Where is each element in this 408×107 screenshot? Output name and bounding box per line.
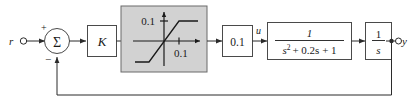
plant-denominator-rest: + 0.2s + 1 bbox=[292, 44, 336, 56]
sum-input-plus-sign: + bbox=[41, 22, 47, 33]
plant-numerator: 1 bbox=[307, 27, 313, 39]
gain-small-label: 0.1 bbox=[230, 36, 245, 48]
sum-input-minus-sign: − bbox=[45, 53, 51, 65]
summing-junction-symbol: Σ bbox=[53, 35, 61, 50]
signal-u-label: u bbox=[256, 25, 261, 36]
output-terminal-circle bbox=[396, 38, 402, 44]
output-label-y: y bbox=[401, 35, 407, 47]
plant-denominator-exponent: 2 bbox=[287, 43, 291, 52]
input-label-r: r bbox=[9, 35, 14, 47]
integrator-numerator: 1 bbox=[376, 28, 382, 40]
input-terminal-circle bbox=[20, 38, 26, 44]
integrator-denominator: s bbox=[376, 44, 380, 56]
saturation-y-limit-label: 0.1 bbox=[141, 15, 155, 27]
block-diagram: r Σ + − K 0.1 0.1 0.1 u bbox=[0, 0, 408, 107]
gain-k-label: K bbox=[97, 34, 108, 49]
saturation-x-limit-label: 0.1 bbox=[174, 47, 188, 59]
